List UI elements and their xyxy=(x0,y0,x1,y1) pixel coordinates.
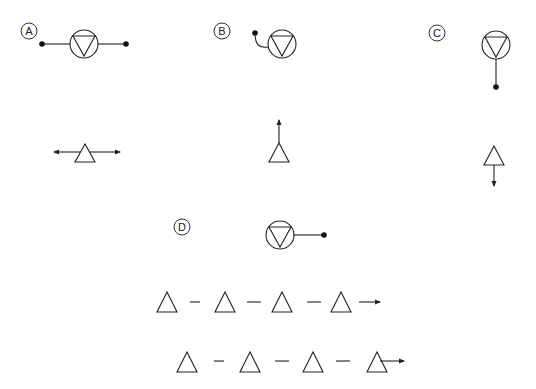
terminal-dot xyxy=(493,84,499,90)
terminal-dot-right xyxy=(123,41,129,47)
triangle-icon xyxy=(484,146,504,165)
label-d-badge: D xyxy=(174,219,190,235)
diagram-canvas: A B C xyxy=(0,0,536,389)
triangle-icon xyxy=(303,352,323,372)
panel-a: A xyxy=(21,23,129,58)
label-c: C xyxy=(433,27,441,39)
triangle-icon xyxy=(367,352,387,372)
triangle-icon xyxy=(75,144,95,162)
pump-symbol-icon xyxy=(70,30,98,58)
sequence-row-2 xyxy=(177,352,404,372)
panel-d: D xyxy=(174,219,327,249)
triangle-icon xyxy=(272,292,292,312)
terminal-dot xyxy=(321,232,327,238)
triangle-icon xyxy=(215,292,235,312)
triangle-icon xyxy=(269,143,289,162)
terminal-dot-left xyxy=(39,41,45,47)
triangle-icon xyxy=(240,352,260,372)
label-b: B xyxy=(218,25,225,37)
curved-lead xyxy=(255,33,268,47)
label-b-badge: B xyxy=(214,23,230,39)
label-c-badge: C xyxy=(429,25,445,41)
pump-symbol-icon xyxy=(266,221,294,249)
pump-symbol-icon xyxy=(268,30,296,58)
triangle-double-arrow xyxy=(54,144,120,162)
panel-c: C xyxy=(429,25,510,90)
pump-symbol-icon xyxy=(482,31,510,59)
panel-b: B xyxy=(214,23,296,58)
triangle-icon xyxy=(157,292,177,312)
label-a: A xyxy=(25,25,33,37)
triangle-up-arrow xyxy=(269,120,289,162)
label-d: D xyxy=(178,221,186,233)
triangle-icon xyxy=(177,352,197,372)
label-a-badge: A xyxy=(21,23,37,39)
triangle-down-arrow xyxy=(484,146,504,186)
sequence-row-1 xyxy=(157,292,380,312)
triangle-icon xyxy=(331,292,351,312)
